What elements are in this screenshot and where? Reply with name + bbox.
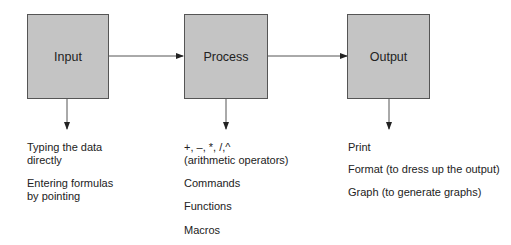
output-box: Output [347,14,430,99]
process-detail-commands: Commands [184,177,240,190]
output-label: Output [370,50,408,64]
input-detail-1: Typing the data [27,141,102,154]
input-detail-2b: by pointing [27,190,80,203]
process-label: Process [203,50,248,64]
input-detail-2: Entering formulas [27,177,113,190]
input-box: Input [27,14,109,99]
output-detail-print: Print [348,141,371,154]
input-detail-1b: directly [27,154,62,167]
process-detail-functions: Functions [184,200,232,213]
process-detail-macros: Macros [184,224,220,237]
output-detail-format: Format (to dress up the output) [348,163,500,176]
output-detail-graph: Graph (to generate graphs) [348,186,481,199]
process-box: Process [184,14,268,99]
process-detail-operators-note: (arithmetic operators) [184,154,289,167]
input-label: Input [54,50,82,64]
process-detail-operators: +, –, *, /,^ [184,141,230,154]
